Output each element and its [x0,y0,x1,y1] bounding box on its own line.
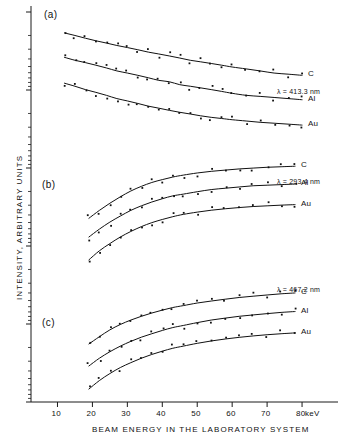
data-point-C [272,69,274,71]
data-point-Al [106,64,108,66]
data-point-C [110,326,112,328]
data-point-C [189,62,191,64]
x-axis-unit-label: keV [305,410,320,418]
data-point-Au [200,118,202,120]
data-point-C [231,64,233,66]
data-point-Au [231,116,233,118]
plot-canvas [0,0,341,441]
data-point-Al [251,183,253,185]
data-point-Al [115,68,117,70]
figure-root: 1020304050607080keVBEAM ENERGY IN THE LA… [0,0,341,441]
x-tick-label-10: 10 [51,410,61,418]
data-point-C [221,66,223,68]
data-point-Au [238,206,240,208]
data-point-C [65,32,67,34]
data-point-C [140,315,142,317]
data-point-Au [109,244,111,246]
data-point-Al [150,331,152,333]
data-point-Au [158,109,160,111]
data-point-C [211,298,213,300]
x-tick-label-30: 30 [121,410,131,418]
data-point-C [251,170,253,172]
data-point-Al [211,191,213,193]
data-point-Au [221,116,223,118]
data-point-Au [211,340,213,342]
data-point-Au [252,204,254,206]
data-point-Al [245,95,247,97]
data-point-C [129,320,131,322]
series-C-panel-a [64,32,303,78]
series-Au-panel-c [89,329,296,389]
data-point-C [89,342,91,344]
data-point-Au [171,344,173,346]
data-point-Au [130,358,132,360]
data-point-C [268,166,270,168]
data-point-C [150,312,152,314]
data-point-C [259,70,261,72]
data-point-Au [162,221,164,223]
data-point-Al [226,186,228,188]
data-point-Al [110,225,112,227]
fitted-curve-Au [64,83,302,125]
data-point-Au [106,98,108,100]
data-point-Au [190,112,192,114]
data-point-Au [168,108,170,110]
data-point-C [225,170,227,172]
data-point-Al [125,70,127,72]
fitted-curve-Al [89,184,295,237]
data-point-Al [161,197,163,199]
series-Al-panel-b [88,181,297,241]
data-point-C [184,177,186,179]
data-point-C [266,297,268,299]
data-point-Al [100,360,102,362]
data-point-Au [279,329,281,331]
data-point-Al [210,322,212,324]
data-point-Au [223,207,225,209]
data-point-C [130,188,132,190]
data-point-C [169,51,171,53]
data-point-Au [120,237,122,239]
data-point-Au [110,370,112,372]
data-point-Al [137,77,139,79]
panel-label-c: (c) [42,318,55,328]
data-point-Al [288,97,290,99]
data-point-Au [268,201,270,203]
data-point-Au [98,377,100,379]
data-point-C [280,163,282,165]
data-point-Au [130,229,132,231]
data-point-Al [198,87,200,89]
fitted-curve-C [64,33,302,75]
data-point-Au [64,85,66,87]
data-point-C [98,213,100,215]
series-C-panel-b [87,163,295,218]
data-point-C [106,42,108,44]
data-point-C [171,308,173,310]
data-point-Al [267,181,269,183]
data-point-Au [136,103,138,105]
data-point-C [196,300,198,302]
x-tick-label-40: 40 [156,410,166,418]
curve-label-C-panel-c: C [301,288,307,296]
wavelength-label-panel-b: λ = 293.4 nm [277,178,320,185]
data-point-Au [195,340,197,342]
data-point-Au [265,336,267,338]
data-point-Au [300,127,302,129]
data-point-Au [274,124,276,126]
data-point-Au [150,352,152,354]
data-point-C [223,300,225,302]
data-point-Al [183,328,185,330]
data-point-C [239,294,241,296]
data-point-Al [120,213,122,215]
data-point-Au [151,224,153,226]
data-point-Al [87,362,89,364]
data-point-C [136,51,138,53]
data-point-C [183,303,185,305]
data-point-C [110,204,112,206]
series-Al-panel-a [64,54,302,101]
data-point-C [293,163,295,165]
y-axis-title: INTENSITY, ARBITRARY UNITS [16,155,24,300]
data-point-Al [239,188,241,190]
data-point-Al [222,88,224,90]
data-point-Au [173,212,175,214]
data-point-Au [260,120,262,122]
